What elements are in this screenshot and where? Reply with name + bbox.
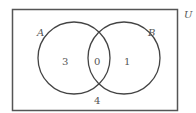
venn-diagram: U A B 3 0 1 4 <box>0 0 196 113</box>
universe-label: U <box>184 9 193 20</box>
b-only-count: 1 <box>124 56 130 67</box>
a-only-count: 3 <box>62 56 68 67</box>
set-a-label: A <box>36 27 44 38</box>
outside-count: 4 <box>94 95 100 106</box>
set-b-label: B <box>147 27 155 38</box>
intersection-count: 0 <box>94 56 100 67</box>
